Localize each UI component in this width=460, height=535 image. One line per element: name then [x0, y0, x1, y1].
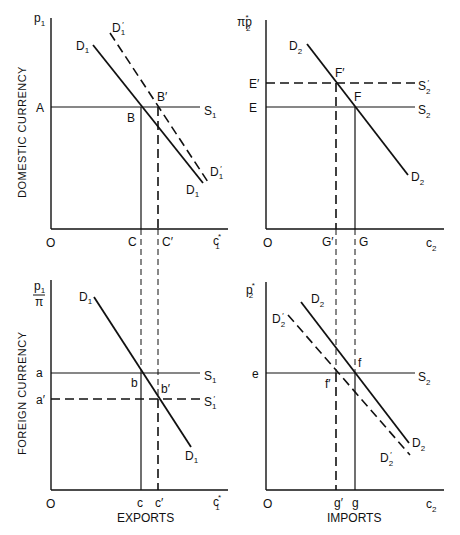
supply-label-S2: S2	[418, 370, 431, 387]
origin-label: O	[46, 497, 55, 511]
point-label-F-prime: F′	[335, 66, 345, 80]
price-label-A: A	[36, 101, 44, 115]
demand-label-D1-prime-top: D1′	[112, 20, 126, 37]
y-axis-numerator: p1	[34, 279, 46, 295]
point-label-b: b	[131, 376, 138, 390]
y-axis-label: p*2	[246, 281, 255, 300]
quantity-label-c-prime: c′	[155, 496, 164, 510]
demand-label-D1-top: D1	[79, 290, 93, 306]
demand-label-D2-top: D2	[289, 39, 303, 56]
demand-curve-D2-prime	[288, 315, 410, 455]
quantity-label-G: G	[359, 235, 368, 249]
x-axis-label: c*1	[213, 493, 221, 512]
quantity-label-G-prime: G′	[322, 235, 334, 249]
four-panel-trade-diagram: p1 DOMESTIC CURRENCY A O c*1 S1 D1 D1 D1…	[0, 0, 460, 535]
price-label-e: e	[252, 367, 259, 381]
demand-label-D2-top: D2	[311, 292, 325, 309]
origin-label: O	[263, 236, 272, 250]
point-label-f-prime: f′	[325, 377, 331, 391]
supply-label-S1: S1	[204, 104, 217, 120]
demand-curve-D2	[307, 44, 408, 175]
quantity-label-c: c	[137, 496, 143, 510]
x-axis-title-imports: IMPORTS	[327, 511, 381, 525]
price-label-E: E	[249, 101, 257, 115]
demand-label-D1-prime-bottom: D1′	[210, 164, 224, 181]
demand-label-D2-prime-top: D2′	[272, 311, 286, 329]
point-label-B: B	[127, 111, 135, 125]
supply-label-S1: S1	[204, 369, 217, 385]
y-axis-denominator: π	[35, 295, 43, 309]
point-label-F: F	[354, 90, 361, 104]
price-label-a: a	[36, 366, 43, 380]
quantity-label-C: C	[128, 235, 137, 249]
panel-foreign-exports: p1 π FOREIGN CURRENCY a a′ O c*1 EXPORTS…	[16, 279, 228, 525]
point-label-b-prime: b′	[161, 382, 171, 396]
quantity-label-g-prime: g′	[334, 496, 344, 510]
supply-label-S2-prime: S2′	[418, 78, 431, 96]
supply-label-S1-prime: S1′	[204, 394, 217, 411]
quantity-label-g: g	[352, 496, 359, 510]
demand-label-D1-bottom: D1	[186, 183, 200, 199]
supply-label-S2: S2	[418, 103, 431, 120]
y-axis-label: πp2*	[237, 13, 252, 33]
panel-domestic-exports: p1 DOMESTIC CURRENCY A O c*1 S1 D1 D1 D1…	[16, 11, 228, 251]
x-axis-title-exports: EXPORTS	[117, 511, 174, 525]
y-axis-label: p1	[34, 11, 46, 28]
price-label-E-prime: E′	[249, 77, 260, 91]
demand-label-D2-prime-bottom: D2′	[380, 450, 394, 468]
origin-label: O	[263, 497, 272, 511]
demand-curve-D1	[94, 297, 191, 447]
panel-foreign-imports: p*2 e O c2 IMPORTS S2 D2 D2 D2′ D2′ f f′…	[246, 281, 444, 525]
vertical-title-domestic: DOMESTIC CURRENCY	[16, 66, 28, 198]
demand-label-D2-bottom: D2	[412, 436, 426, 453]
demand-curve-D1	[93, 45, 203, 183]
demand-label-D1-top: D1	[76, 39, 90, 55]
point-label-f: f	[358, 356, 362, 370]
origin-label: O	[46, 236, 55, 250]
panel-domestic-imports: πp2* O c2 E′ E S2′ S2 D2 D2 F′ F G′ G	[237, 13, 444, 253]
x-axis-label: c2	[426, 236, 437, 253]
demand-label-D2-bottom: D2	[411, 170, 425, 187]
vertical-title-foreign: FOREIGN CURRENCY	[16, 331, 28, 455]
demand-label-D1-bottom: D1	[185, 449, 199, 465]
x-axis-label: c*1	[213, 232, 221, 251]
point-label-B-prime: B′	[157, 90, 168, 104]
quantity-label-C-prime: C′	[162, 235, 174, 249]
x-axis-label: c2	[426, 497, 437, 514]
price-label-a-prime: a′	[36, 393, 46, 407]
